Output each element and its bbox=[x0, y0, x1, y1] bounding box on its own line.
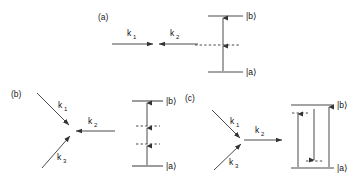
panel-c-level-a-label: |a⟩ bbox=[337, 163, 348, 173]
panel-a-k2-subscript: 2 bbox=[176, 34, 180, 40]
panel-a-k2-label: k bbox=[170, 28, 175, 38]
physics-figure: (a) k 1 k 2 |b⟩ |a⟩ bbox=[0, 0, 353, 178]
panel-c-label: (c) bbox=[185, 93, 195, 103]
panel-b-energy-diagram: |b⟩ |a⟩ bbox=[132, 96, 177, 171]
figure-container: (a) k 1 k 2 |b⟩ |a⟩ bbox=[0, 0, 353, 178]
panel-c-k2-subscript: 2 bbox=[261, 131, 265, 137]
panel-a-level-a-label: |a⟩ bbox=[246, 67, 257, 77]
panel-b-k1-subscript: 1 bbox=[64, 106, 68, 112]
panel-c: (c) k 1 k 2 k 3 |b⟩ bbox=[185, 93, 348, 173]
panel-a: (a) k 1 k 2 |b⟩ |a⟩ bbox=[98, 11, 257, 77]
panel-c-k2-label: k bbox=[255, 125, 260, 135]
panel-c-energy-diagram: |b⟩ |a⟩ bbox=[291, 100, 348, 173]
panel-a-level-b-label: |b⟩ bbox=[246, 11, 257, 21]
panel-a-wavevector-diagram: k 1 k 2 bbox=[112, 28, 198, 44]
panel-c-k3-subscript: 3 bbox=[235, 163, 239, 169]
panel-b-level-a-label: |a⟩ bbox=[166, 161, 177, 171]
panel-a-label: (a) bbox=[98, 12, 109, 22]
panel-a-k1-label: k bbox=[127, 28, 132, 38]
panel-a-k1-subscript: 1 bbox=[133, 34, 137, 40]
panel-c-k3-label: k bbox=[229, 157, 234, 167]
panel-c-k1-subscript: 1 bbox=[236, 122, 240, 128]
panel-a-energy-diagram: |b⟩ |a⟩ bbox=[195, 11, 257, 77]
panel-b-k3-subscript: 3 bbox=[63, 158, 67, 164]
panel-c-level-b-label: |b⟩ bbox=[337, 100, 348, 110]
panel-b-wavevector-diagram: k 1 k 2 k 3 bbox=[37, 93, 115, 168]
panel-b-k2-subscript: 2 bbox=[94, 122, 98, 128]
panel-b-level-b-label: |b⟩ bbox=[166, 96, 177, 106]
panel-b-k3-label: k bbox=[57, 152, 62, 162]
panel-c-k1-label: k bbox=[230, 116, 235, 126]
panel-b: (b) k 1 k 2 k 3 |b⟩ bbox=[11, 89, 177, 171]
panel-b-k1-label: k bbox=[58, 100, 63, 110]
panel-c-wavevector-diagram: k 1 k 2 k 3 bbox=[212, 110, 282, 170]
panel-b-k2-label: k bbox=[88, 116, 93, 126]
panel-b-label: (b) bbox=[11, 89, 22, 99]
